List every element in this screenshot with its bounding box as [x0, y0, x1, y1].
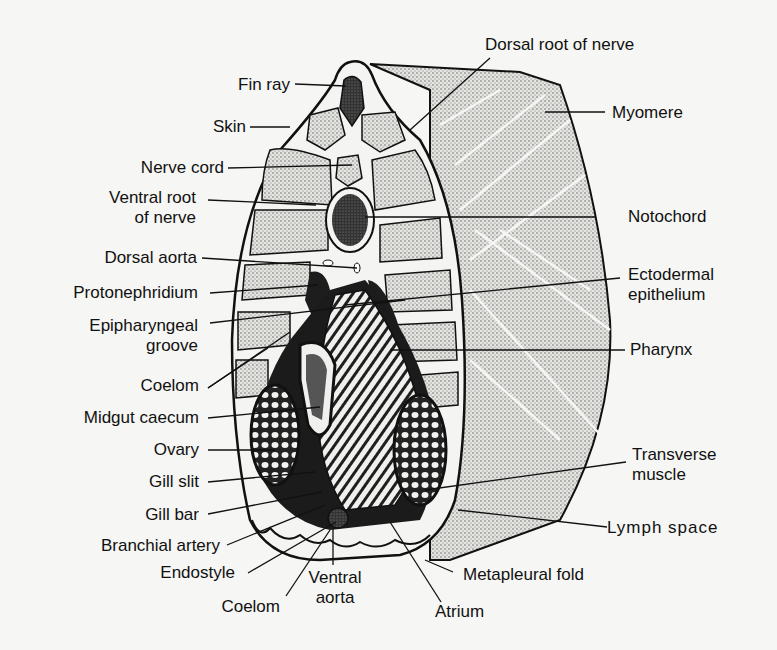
- label-endostyle: Endostyle: [120, 563, 235, 583]
- label-protonephridium: Protonephridium: [30, 283, 198, 303]
- label-myomere: Myomere: [612, 103, 683, 123]
- label-midgut-caecum: Midgut caecum: [40, 408, 199, 428]
- label-coelom-upper: Coelom: [100, 376, 199, 396]
- label-ovary: Ovary: [100, 440, 199, 460]
- ovary-left: [251, 385, 299, 485]
- label-notochord: Notochord: [628, 207, 706, 227]
- label-ventral-aorta: Ventral aorta: [300, 568, 370, 608]
- label-ventral-root-of-nerve: Ventral root of nerve: [60, 188, 196, 228]
- label-atrium: Atrium: [435, 602, 484, 622]
- label-pharynx: Pharynx: [630, 340, 692, 360]
- label-gill-slit: Gill slit: [100, 472, 199, 492]
- label-gill-bar: Gill bar: [100, 505, 199, 525]
- label-metapleural-fold: Metapleural fold: [463, 565, 584, 585]
- label-transverse-muscle: Transverse muscle: [632, 445, 716, 485]
- label-coelom-lower: Coelom: [180, 597, 280, 617]
- label-dorsal-root-of-nerve: Dorsal root of nerve: [485, 35, 634, 55]
- label-lymph-space: Lymph space: [607, 518, 718, 538]
- label-dorsal-aorta: Dorsal aorta: [40, 248, 197, 268]
- amphioxus-cross-section-diagram: Fin ray Skin Nerve cord Ventral root of …: [0, 0, 777, 650]
- notochord-shape: [332, 194, 368, 246]
- label-epipharyngeal-groove: Epipharyngeal groove: [40, 316, 198, 356]
- label-ectodermal-epithelium: Ectodermal epithelium: [628, 265, 714, 305]
- label-branchial-artery: Branchial artery: [50, 536, 220, 556]
- label-fin-ray: Fin ray: [190, 75, 290, 95]
- label-nerve-cord: Nerve cord: [90, 158, 224, 178]
- label-skin: Skin: [146, 117, 246, 137]
